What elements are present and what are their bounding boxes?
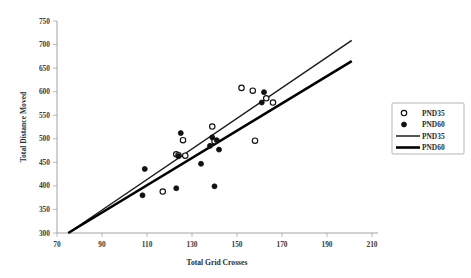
- y-tick-label: 500: [39, 134, 50, 143]
- x-tick-label: 110: [142, 240, 153, 249]
- data-point-pnd35: [160, 189, 165, 194]
- data-point-pnd35: [239, 85, 244, 90]
- legend-label: PND35: [422, 109, 445, 118]
- data-point-pnd35: [210, 124, 215, 129]
- data-point-pnd60: [214, 138, 219, 143]
- x-tick-label: 70: [53, 240, 61, 249]
- data-point-pnd35: [252, 138, 257, 143]
- x-axis-title: Total Grid Crosses: [187, 258, 248, 267]
- data-point-pnd60: [199, 161, 204, 166]
- x-tick-label: 210: [366, 240, 377, 249]
- data-point-pnd60: [259, 100, 264, 105]
- y-axis-title: Total Distance Moved: [19, 91, 28, 162]
- x-tick-label: 130: [186, 240, 197, 249]
- data-point-pnd35: [183, 153, 188, 158]
- x-tick-label: 150: [231, 240, 242, 249]
- data-point-pnd60: [212, 184, 217, 189]
- data-point-pnd60: [210, 135, 215, 140]
- data-point-pnd60: [176, 154, 181, 159]
- y-tick-label: 550: [39, 111, 50, 120]
- legend-label: PND35: [422, 132, 445, 141]
- data-point-pnd60: [178, 131, 183, 136]
- y-tick-label: 650: [39, 64, 50, 73]
- data-point-pnd35: [250, 88, 255, 93]
- data-point-pnd35: [270, 100, 275, 105]
- legend-label: PND60: [422, 120, 445, 129]
- scatter-chart: 300350400450500550600650700750 709011013…: [0, 0, 471, 278]
- y-tick-label: 300: [39, 229, 50, 238]
- data-point-pnd60: [208, 143, 213, 148]
- data-point-pnd60: [174, 186, 179, 191]
- data-point-pnd35: [264, 96, 269, 101]
- x-axis-ticks: 7090110130150170190210: [53, 233, 378, 249]
- y-tick-label: 400: [39, 181, 50, 190]
- y-tick-label: 450: [39, 158, 50, 167]
- x-tick-label: 90: [98, 240, 106, 249]
- x-tick-label: 170: [276, 240, 287, 249]
- data-point-pnd35: [180, 137, 185, 142]
- data-point-pnd60: [262, 90, 267, 95]
- data-point-pnd60: [217, 147, 222, 152]
- y-tick-label: 600: [39, 87, 50, 96]
- legend-label: PND60: [422, 143, 445, 152]
- plot-area: 300350400450500550600650700750 709011013…: [0, 0, 471, 278]
- legend-marker-filled-circle: [402, 122, 407, 127]
- x-tick-label: 190: [321, 240, 332, 249]
- data-point-pnd60: [142, 166, 147, 171]
- data-points-pnd60: [140, 90, 267, 198]
- legend-marker-open-circle: [401, 110, 406, 115]
- y-tick-label: 350: [39, 205, 50, 214]
- data-point-pnd60: [140, 193, 145, 198]
- y-tick-label: 750: [39, 17, 50, 26]
- y-axis-ticks: 300350400450500550600650700750: [39, 17, 57, 238]
- y-tick-label: 700: [39, 40, 50, 49]
